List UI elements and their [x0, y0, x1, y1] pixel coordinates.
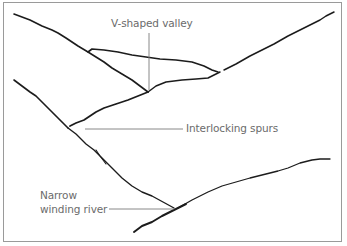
label-winding-river: winding river: [40, 203, 107, 216]
label-narrow: Narrow: [40, 189, 77, 202]
lower-right-slope: [178, 159, 330, 208]
upper-crest: [88, 49, 218, 72]
middle-spur: [70, 92, 148, 126]
valley-floor-right: [148, 72, 220, 92]
label-v-shaped-valley: V-shaped valley: [111, 17, 193, 30]
river: [134, 204, 186, 232]
lower-slope: [68, 128, 174, 208]
lower-left-slope: [14, 80, 68, 128]
label-interlocking-spurs: Interlocking spurs: [186, 122, 278, 135]
upper-right-slope: [224, 12, 334, 70]
tributary-tick: [96, 150, 106, 164]
